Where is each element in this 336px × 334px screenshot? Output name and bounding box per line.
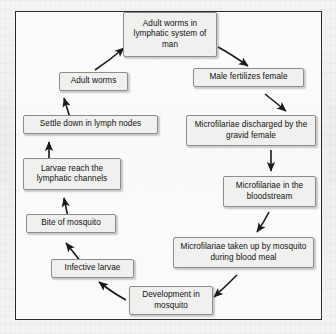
node-adult-worms[interactable]: Adult worms xyxy=(59,72,128,91)
node-larvae-reach-lymphatic-channels[interactable]: Larvae reach the lymphatic channels xyxy=(23,158,121,190)
arrow-male-fertilizes-to-discharged xyxy=(265,94,286,111)
node-settle-down-lymph-nodes[interactable]: Settle down in lymph nodes xyxy=(23,115,158,134)
node-male-fertilizes-female[interactable]: Male fertilizes female xyxy=(193,68,304,87)
arrow-taken-up-to-development xyxy=(214,275,237,297)
arrow-bloodstream-to-taken-up xyxy=(257,212,269,232)
node-microfilariae-discharged[interactable]: Microfilariae discharged by the gravid f… xyxy=(186,115,316,146)
node-development-in-mosquito[interactable]: Development in mosquito xyxy=(129,286,213,315)
node-bite-of-mosquito[interactable]: Bite of mosquito xyxy=(26,214,116,233)
node-infective-larvae[interactable]: Infective larvae xyxy=(51,259,134,278)
arrow-development-to-infective-larvae xyxy=(99,282,126,300)
node-adult-worms-lymphatic-system[interactable]: Adult worms in lymphatic system of man xyxy=(123,12,217,57)
node-microfilariae-bloodstream[interactable]: Microfilariae in the bloodstream xyxy=(223,176,316,207)
node-microfilariae-taken-up[interactable]: Microfilariae taken up by mosquito durin… xyxy=(173,237,314,268)
arrow-adult-worms-to-lymphatic-system xyxy=(95,48,124,70)
diagram-frame: Adult worms in lymphatic system of man M… xyxy=(15,11,322,320)
arrow-lymphatic-system-to-male-fertilizes xyxy=(218,47,248,66)
